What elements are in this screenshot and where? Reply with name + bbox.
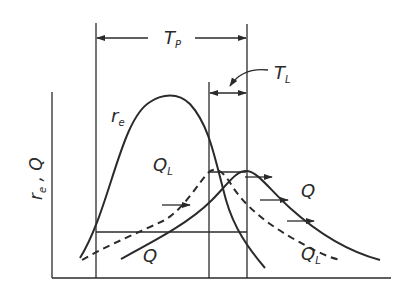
tl-leader-arrow xyxy=(230,70,268,86)
tl-label: TL xyxy=(274,62,291,85)
re-label: re xyxy=(111,105,125,128)
ql-label-right: QL xyxy=(301,243,321,266)
q-curve xyxy=(121,171,380,260)
ql-label-left: QL xyxy=(153,154,173,177)
hydrograph-diagram: TP TL re QL Q Q QL re , Q xyxy=(0,0,411,296)
re-curve xyxy=(80,96,265,269)
q-label-right: Q xyxy=(301,180,315,201)
q-label-left: Q xyxy=(143,245,157,266)
tp-label: TP xyxy=(164,27,182,50)
y-axis-label: re , Q xyxy=(26,157,48,200)
